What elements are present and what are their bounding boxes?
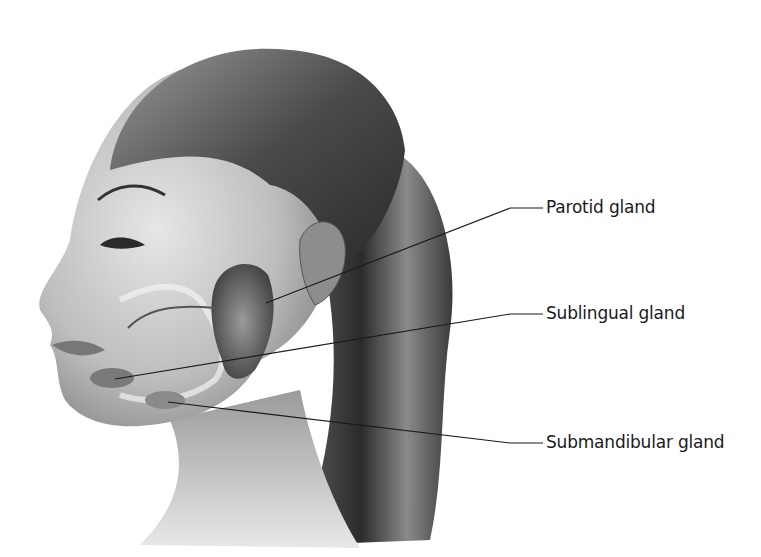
salivary-gland-diagram: Parotid gland Sublingual gland Submandib… xyxy=(0,0,761,557)
label-sublingual-gland: Sublingual gland xyxy=(546,305,685,322)
submandibular-gland-shape xyxy=(145,391,185,409)
sublingual-gland-shape xyxy=(90,368,134,388)
label-parotid-gland: Parotid gland xyxy=(546,199,655,216)
head-illustration xyxy=(0,0,761,557)
label-submandibular-gland: Submandibular gland xyxy=(546,434,724,451)
